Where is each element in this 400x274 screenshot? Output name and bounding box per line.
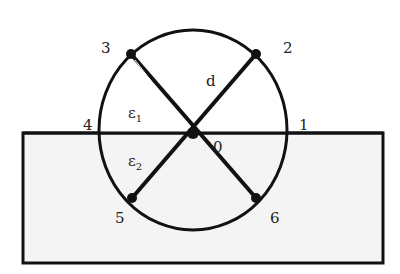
point-5: [127, 193, 137, 203]
point-6: [251, 193, 261, 203]
label-d: d: [206, 72, 216, 90]
point-2: [251, 49, 261, 59]
epsilon-2-subscript: 2: [136, 161, 142, 172]
label-5: 5: [115, 209, 125, 227]
label-0: 0: [213, 138, 223, 156]
label-6: 6: [270, 209, 280, 227]
label-2: 2: [283, 39, 293, 57]
label-1: 1: [299, 116, 309, 134]
label-4: 4: [83, 116, 93, 134]
epsilon-1-subscript: 1: [136, 113, 142, 124]
label-3: 3: [101, 39, 111, 57]
substrate-rect: [23, 133, 383, 263]
electrode-diagram: 3 2 4 1 0 d 5 6 ε1 ε2: [0, 0, 400, 274]
point-center: [187, 127, 199, 139]
point-3: [126, 49, 136, 59]
